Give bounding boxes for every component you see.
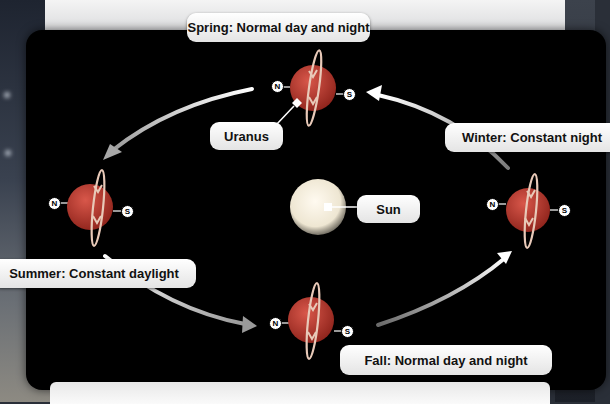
south-pole-marker-fall: S [341, 325, 354, 338]
north-pole-marker-fall: N [269, 317, 282, 330]
uranus-connector [276, 106, 294, 125]
sun-marker [324, 203, 332, 211]
uranus-spring [276, 50, 344, 127]
south-pole-marker-winter: S [558, 204, 571, 217]
north-pole-marker-spring: N [271, 80, 284, 93]
label-summer: Summer: Constant daylight [0, 259, 196, 288]
uranus-summer [60, 170, 121, 247]
label-uranus: Uranus [210, 122, 283, 150]
uranus-fall [281, 283, 342, 360]
label-fall: Fall: Normal day and night [340, 345, 552, 375]
label-spring: Spring: Normal day and night [187, 13, 370, 42]
label-winter: Winter: Constant night [445, 123, 610, 152]
north-pole-marker-winter: N [486, 198, 499, 211]
south-pole-marker-summer: S [121, 205, 134, 218]
uranus-winter [498, 174, 558, 249]
south-pole-marker-spring: S [343, 88, 356, 101]
orbit-arrow-fall-to-winter [378, 251, 512, 325]
label-sun: Sun [357, 195, 420, 223]
north-pole-marker-summer: N [48, 197, 61, 210]
